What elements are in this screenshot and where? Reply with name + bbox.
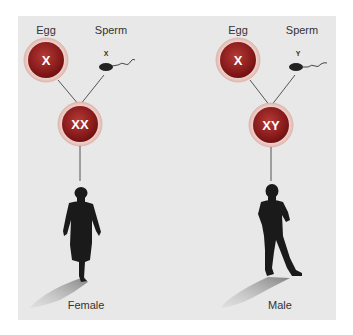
female-egg-label: Egg [36, 24, 56, 36]
male-egg-cell: X [216, 38, 260, 82]
male-sperm-chromosome: Y [296, 50, 301, 57]
female-zygote-cell: XX [58, 102, 102, 146]
sperm-head-icon [289, 63, 303, 71]
male-egg-chromosome: X [234, 53, 243, 68]
female-zygote-genotype: XX [71, 117, 89, 132]
female-egg-chromosome: X [42, 53, 51, 68]
male-egg-label: Egg [228, 24, 248, 36]
male-result-label: Male [268, 299, 292, 311]
sex-determination-diagram: Egg Sperm X X XX [0, 0, 353, 335]
female-result-label: Female [68, 299, 105, 311]
female-sperm-label: Sperm [95, 24, 127, 36]
sperm-head-icon [99, 63, 113, 71]
male-sperm-label: Sperm [286, 24, 318, 36]
female-sperm-chromosome: X [104, 50, 109, 57]
female-egg-cell: X [24, 38, 68, 82]
male-zygote-genotype: XY [262, 118, 280, 133]
male-zygote-cell: XY [249, 103, 293, 147]
